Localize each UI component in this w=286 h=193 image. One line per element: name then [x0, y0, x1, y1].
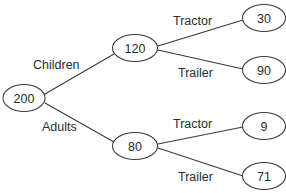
tree-diagram-svg: 200120803090971 ChildrenAdultsTractorTra…: [0, 0, 286, 193]
node-child-tractor[interactable]: 30: [243, 5, 286, 32]
node-value-root: 200: [14, 92, 35, 106]
node-children[interactable]: 120: [113, 35, 158, 62]
node-value-children: 120: [125, 42, 146, 56]
node-value-adult-trailer: 71: [257, 170, 271, 184]
node-child-trailer[interactable]: 90: [243, 57, 286, 84]
label-trailer-adult: Trailer: [178, 170, 213, 184]
node-value-adult-tractor: 9: [261, 120, 268, 134]
nodes-group: 200120803090971: [3, 5, 286, 190]
label-children: Children: [33, 58, 80, 72]
node-adult-trailer[interactable]: 71: [243, 163, 286, 190]
label-tractor-child: Tractor: [173, 14, 212, 28]
node-adults[interactable]: 80: [113, 133, 158, 160]
label-tractor-adult: Tractor: [173, 117, 212, 131]
node-value-adults: 80: [128, 140, 142, 154]
label-trailer-child: Trailer: [178, 66, 213, 80]
node-adult-tractor[interactable]: 9: [243, 113, 286, 140]
label-adults: Adults: [42, 120, 77, 134]
tree-diagram-canvas: 200120803090971 ChildrenAdultsTractorTra…: [0, 0, 286, 193]
node-root[interactable]: 200: [3, 85, 45, 112]
node-value-child-trailer: 90: [257, 64, 271, 78]
node-value-child-tractor: 30: [257, 12, 271, 26]
